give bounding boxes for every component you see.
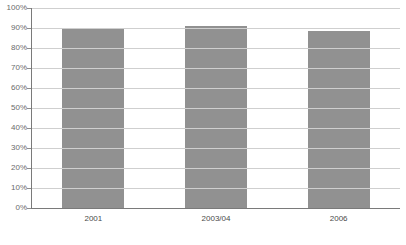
y-axis-tick-mark: [27, 48, 31, 49]
gridline: [32, 128, 400, 129]
y-axis-tick-mark: [27, 68, 31, 69]
bar: [62, 28, 124, 208]
plot-area: [32, 8, 400, 208]
y-axis-tick-label: 60%: [1, 84, 27, 92]
y-axis-tick-mark: [27, 148, 31, 149]
y-axis-tick-mark: [27, 168, 31, 169]
gridline: [32, 48, 400, 49]
x-axis-tick-label: 2006: [330, 215, 348, 223]
y-axis-tick-mark: [27, 28, 31, 29]
gridline: [32, 148, 400, 149]
y-axis-labels: 0%10%20%30%40%50%60%70%80%90%100%: [0, 0, 27, 245]
x-axis-tick-label: 2003/04: [202, 215, 231, 223]
gridline: [32, 108, 400, 109]
gridline: [32, 168, 400, 169]
y-axis-tick-label: 0%: [1, 204, 27, 212]
y-axis-tick-label: 100%: [1, 4, 27, 12]
bar: [308, 31, 370, 208]
gridline: [32, 88, 400, 89]
y-axis-tick-label: 50%: [1, 104, 27, 112]
y-axis-tick-label: 10%: [1, 184, 27, 192]
x-axis-tick-label: 2001: [84, 215, 102, 223]
y-axis-tick-label: 80%: [1, 44, 27, 52]
bar: [185, 26, 247, 208]
y-axis-tick-label: 20%: [1, 164, 27, 172]
y-axis-tick-mark: [27, 108, 31, 109]
y-axis-tick-label: 70%: [1, 64, 27, 72]
y-axis-tick-label: 30%: [1, 144, 27, 152]
y-axis-tick-label: 40%: [1, 124, 27, 132]
y-axis-tick-mark: [27, 208, 31, 209]
y-axis-tick-label: 90%: [1, 24, 27, 32]
y-axis-tick-mark: [27, 128, 31, 129]
gridline: [32, 8, 400, 9]
y-axis-tick-mark: [27, 8, 31, 9]
y-axis-tick-mark: [27, 88, 31, 89]
bar-chart: 0%10%20%30%40%50%60%70%80%90%100% 200120…: [0, 0, 406, 245]
axis-baseline: [32, 208, 400, 209]
gridline: [32, 188, 400, 189]
y-axis-tick-mark: [27, 188, 31, 189]
gridline: [32, 28, 400, 29]
gridline: [32, 68, 400, 69]
y-axis-line: [31, 8, 32, 209]
